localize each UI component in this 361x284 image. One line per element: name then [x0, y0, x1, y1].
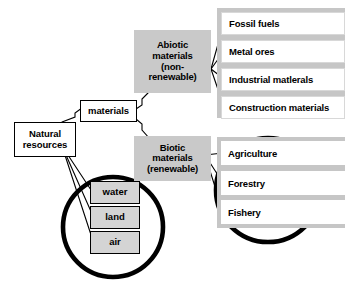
- abiotic-item-construction-materials[interactable]: Construction materials: [221, 96, 345, 119]
- environment-item-air[interactable]: air: [90, 231, 140, 254]
- environment-item-land[interactable]: land: [90, 206, 140, 229]
- biotic-item-agriculture[interactable]: Agriculture: [221, 141, 345, 165]
- biotic-item-forestry[interactable]: Forestry: [221, 171, 345, 195]
- environment-item-water[interactable]: water: [90, 181, 140, 204]
- abiotic-item-metal-ores[interactable]: Metal ores: [221, 40, 345, 63]
- node-natural-resources[interactable]: Natural resources: [14, 122, 76, 157]
- category-biotic-materials[interactable]: Biotic materials (renewable): [134, 136, 211, 181]
- natural-resources-diagram: Fossil fuels Metal ores Industrial matle…: [0, 0, 361, 284]
- abiotic-item-industrial-materials[interactable]: Industrial matlerals: [221, 68, 345, 91]
- abiotic-item-fossil-fuels[interactable]: Fossil fuels: [221, 12, 345, 35]
- connector-materials-to-abiotic: [136, 93, 148, 109]
- node-materials[interactable]: materials: [80, 100, 137, 122]
- biotic-item-fishery[interactable]: Fishery: [221, 200, 345, 224]
- category-abiotic-materials[interactable]: Abiotic materials (non- renewable): [134, 30, 211, 93]
